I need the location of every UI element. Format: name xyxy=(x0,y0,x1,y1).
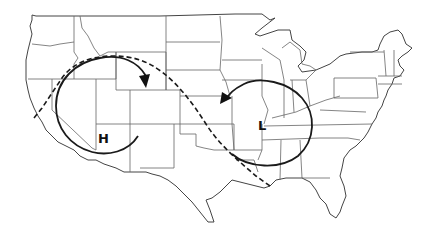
low-counterclockwise-arc xyxy=(226,80,312,165)
high-pressure-system: H xyxy=(56,57,150,153)
low-pressure-system: L xyxy=(220,80,312,165)
us-weather-map: H L dashed-track xyxy=(0,0,448,237)
high-arrow-head-icon xyxy=(139,74,150,88)
high-pressure-label: H xyxy=(98,131,109,146)
low-pressure-label: L xyxy=(258,118,266,133)
us-outline xyxy=(26,14,412,222)
dashed-track xyxy=(34,56,270,186)
